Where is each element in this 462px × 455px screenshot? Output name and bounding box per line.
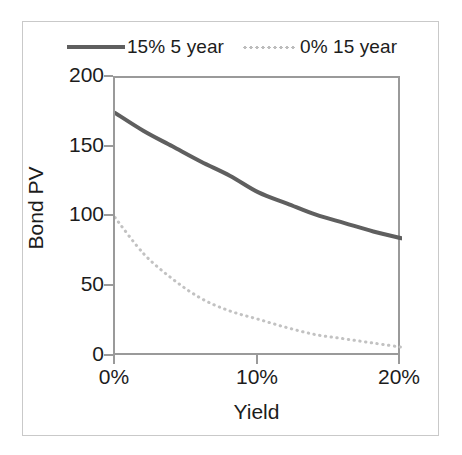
y-tick-label-100: 100 bbox=[40, 203, 104, 224]
legend-entry-series-2: 0% 15 year bbox=[238, 36, 397, 58]
y-tick-mark-150 bbox=[104, 145, 113, 147]
x-tick-label-0pct: 0% bbox=[69, 366, 159, 387]
y-tick-label-50: 50 bbox=[40, 273, 104, 294]
series-line-0pct-15year bbox=[115, 218, 402, 348]
legend-label-series-1: 15% 5 year bbox=[127, 36, 224, 58]
x-tick-mark-20pct bbox=[398, 355, 400, 364]
y-tick-label-150: 150 bbox=[40, 134, 104, 155]
y-tick-label-200: 200 bbox=[40, 64, 104, 85]
y-tick-mark-100 bbox=[104, 214, 113, 216]
dotted-line-swatch-icon bbox=[238, 40, 300, 54]
y-axis-title: Bond PV bbox=[24, 148, 48, 268]
x-tick-mark-0pct bbox=[113, 355, 115, 364]
y-tick-mark-200 bbox=[104, 75, 113, 77]
x-tick-label-10pct: 10% bbox=[212, 366, 302, 387]
y-tick-mark-0 bbox=[104, 354, 113, 356]
figure-root: 15% 5 year 0% 15 year 200 150 100 50 0 0… bbox=[0, 0, 462, 455]
x-axis-title: Yield bbox=[113, 400, 400, 424]
x-tick-mark-10pct bbox=[256, 355, 258, 364]
legend-label-series-2: 0% 15 year bbox=[300, 36, 397, 58]
y-tick-mark-50 bbox=[104, 284, 113, 286]
x-tick-label-20pct: 20% bbox=[354, 366, 444, 387]
plot-canvas bbox=[115, 78, 402, 357]
y-tick-label-0: 0 bbox=[40, 343, 104, 364]
plot-area bbox=[113, 76, 400, 355]
series-line-15pct-5year bbox=[115, 113, 402, 239]
